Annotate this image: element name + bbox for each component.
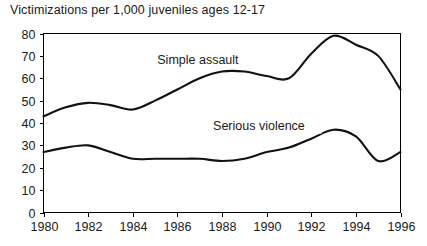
y-tick-label: 70 (22, 50, 36, 64)
series-label-1: Serious violence (213, 119, 305, 133)
y-tick-label: 20 (22, 162, 36, 176)
x-tick-label: 1984 (120, 220, 148, 234)
victimization-rate-chart: Victimizations per 1,000 juveniles ages … (0, 0, 427, 246)
y-tick-label: 60 (22, 72, 36, 86)
y-tick-label: 50 (22, 95, 36, 109)
x-tick-label: 1990 (254, 220, 282, 234)
x-tick-label: 1982 (75, 220, 103, 234)
chart-plot-area: 01020304050607080 1980198219841986198819… (0, 0, 427, 246)
y-tick-label: 30 (22, 139, 36, 153)
x-axis-tick-marks (45, 213, 402, 217)
y-tick-label: 80 (22, 28, 36, 42)
x-tick-label: 1986 (164, 220, 192, 234)
x-axis-tick-labels: 198019821984198619881990199219941996 (31, 220, 416, 234)
x-tick-label: 1996 (388, 220, 416, 234)
y-axis-tick-marks (40, 35, 44, 214)
x-tick-label: 1992 (298, 220, 326, 234)
y-tick-label: 10 (22, 184, 36, 198)
x-tick-label: 1994 (343, 220, 371, 234)
y-axis-tick-labels: 01020304050607080 (22, 28, 36, 221)
y-tick-label: 40 (22, 117, 36, 131)
x-tick-label: 1980 (31, 220, 59, 234)
x-tick-label: 1988 (209, 220, 237, 234)
series-label-0: Simple assault (157, 53, 239, 67)
